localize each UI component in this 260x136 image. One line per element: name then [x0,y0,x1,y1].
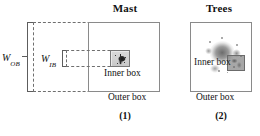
mast-speckle-icon [125,57,126,58]
outer-box-caption-panel-2: Outer box [196,92,234,103]
label-w-ib: WIB [41,53,56,64]
figure-number-panel-1: (1) [100,110,150,121]
inner-box-frame-panel-1 [110,50,130,67]
inner-box-caption-panel-1: Inner box [104,68,141,79]
inner-box-width-bracket [62,50,66,67]
figure-number-panel-2: (2) [196,110,246,121]
label-w-ob: WOB [2,52,20,63]
mast-pole-icon [120,54,121,64]
mast-speckle-icon [117,63,118,64]
trees-speckle-icon [209,41,211,43]
trees-speckle-icon [218,70,220,72]
trees-speckle-icon [233,66,235,68]
panel-title-mast: Mast [88,2,162,14]
mast-speckle-icon [115,55,116,56]
panel-title-trees: Trees [186,2,252,14]
w-ob-subscript: OB [10,60,19,68]
trees-speckle-icon [240,55,242,57]
trees-image-blob [203,35,243,75]
outer-box-caption-panel-1: Outer box [108,92,146,103]
inner-box-caption-panel-2: Inner box [194,57,231,68]
figure-root: Mast WOB WIB Inner box Outer box (1) Tre… [0,0,260,136]
mast-speckle-icon [124,62,125,63]
trees-speckle-icon [236,44,238,46]
outer-box-width-leader-tick [22,56,28,57]
trees-speckle-icon [227,72,228,73]
outer-box-width-bracket [27,22,33,92]
w-ib-subscript: IB [49,61,56,69]
trees-speckle-icon [221,37,223,39]
